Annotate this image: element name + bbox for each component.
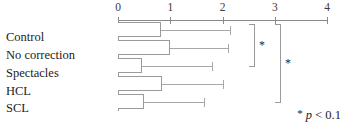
category-label-no-correction: No correction <box>6 49 75 62</box>
x-axis-tick-label-0: 0 <box>115 2 121 14</box>
significance-bracket-1 <box>249 24 255 67</box>
error-bar-cap-spectacles <box>212 62 213 71</box>
footnote-threshold: < 0.1 <box>312 108 341 122</box>
p-value-footnote: * p < 0.1 <box>297 108 341 122</box>
bar-chart-figure: Control No correction Spectacles HCL SCL… <box>0 0 345 125</box>
category-label-spectacles: Spectacles <box>6 67 59 80</box>
error-bar-line-no-correction <box>170 48 228 49</box>
x-axis-tick-label-3: 3 <box>272 2 278 14</box>
error-bar-line-scl <box>144 102 204 103</box>
category-label-hcl: HCL <box>6 85 31 98</box>
bar-scl <box>118 94 144 109</box>
bar-hcl <box>118 76 162 91</box>
error-bar-line-control <box>161 30 231 31</box>
bar-spectacles <box>118 58 142 73</box>
error-bar-line-spectacles <box>142 66 213 67</box>
category-label-control: Control <box>6 31 44 44</box>
error-bar-cap-no-correction <box>228 44 229 53</box>
significance-bracket-2 <box>275 24 281 103</box>
x-axis-tick-label-4: 4 <box>324 2 330 14</box>
bar-control <box>118 22 161 37</box>
bar-no-correction <box>118 40 170 55</box>
error-bar-cap-control <box>230 26 231 35</box>
x-axis-tick-1 <box>170 17 171 24</box>
x-axis-tick-label-2: 2 <box>220 2 226 14</box>
significance-star-2: * <box>285 57 291 69</box>
x-axis-tick-4 <box>327 17 328 24</box>
error-bar-line-hcl <box>162 84 222 85</box>
category-label-scl: SCL <box>6 102 29 115</box>
x-axis-tick-label-1: 1 <box>167 2 173 14</box>
footnote-asterisk: * <box>297 107 303 119</box>
error-bar-cap-hcl <box>223 80 224 89</box>
plot-area: 01234 * * <box>118 0 345 125</box>
significance-star-1: * <box>259 39 265 51</box>
error-bar-cap-scl <box>204 98 205 107</box>
x-axis-tick-2 <box>223 17 224 24</box>
